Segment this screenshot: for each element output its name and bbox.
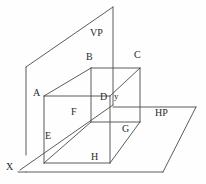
xy-diagonal xyxy=(20,105,113,170)
vertex-label-y: y xyxy=(114,92,119,101)
vertex-label-a: A xyxy=(33,88,40,98)
edge-E-F xyxy=(44,122,91,163)
vertex-label-d: D xyxy=(100,92,107,102)
vertex-label-h: H xyxy=(91,152,98,162)
edge-A-B xyxy=(44,68,91,96)
label-vp: VP xyxy=(90,28,103,38)
ground-line-xy xyxy=(18,105,113,172)
label-hp: HP xyxy=(155,108,168,118)
vertex-label-c: C xyxy=(134,50,141,60)
label-x: X xyxy=(6,162,13,172)
vertex-label-b: B xyxy=(86,52,93,62)
vertex-label-g: G xyxy=(122,124,129,134)
vertex-label-e: E xyxy=(45,131,51,141)
cuboid-solid xyxy=(44,68,140,163)
vertex-label-f: F xyxy=(71,107,77,117)
diagram-canvas: VP HP X A B C D E F G H y xyxy=(0,0,206,184)
